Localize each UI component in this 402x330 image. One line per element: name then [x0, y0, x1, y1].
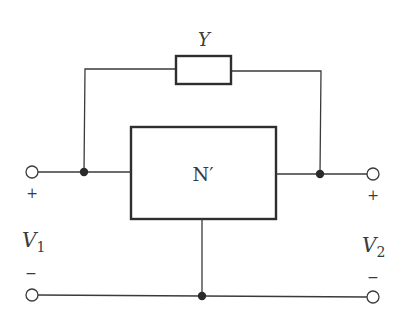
port2-voltage-label: V2 [362, 233, 385, 260]
junction-dot-left [80, 168, 88, 176]
port1-minus-terminal [26, 289, 38, 301]
circuit-diagram: Y N′ + V1 − + V2 − [0, 0, 402, 330]
port2-voltage-subscript: 2 [376, 244, 385, 260]
port2-minus-terminal [367, 291, 379, 303]
port1-voltage-subscript: 1 [36, 239, 45, 255]
port1-minus-sign: − [25, 265, 37, 281]
admittance-box [176, 56, 231, 84]
port1-plus-sign: + [26, 185, 38, 201]
junction-dot-right [316, 170, 324, 178]
admittance-label: Y [198, 29, 212, 50]
port1-plus-terminal [26, 166, 38, 178]
port2-minus-sign: − [367, 269, 379, 285]
network-label: N′ [193, 163, 214, 185]
port2-plus-terminal [367, 168, 379, 180]
port1-voltage-label: V1 [22, 228, 45, 255]
junction-dot-bottom [198, 292, 206, 300]
port2-plus-sign: + [367, 187, 379, 203]
